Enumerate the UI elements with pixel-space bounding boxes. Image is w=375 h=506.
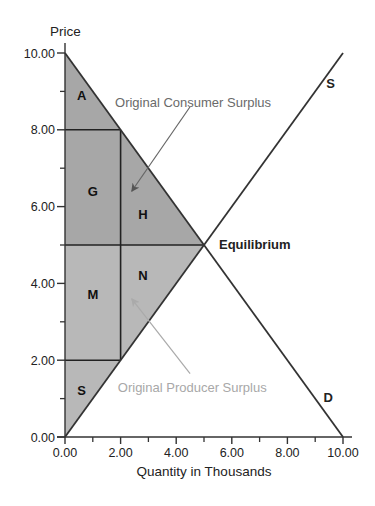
y-tick-label: 10.00 — [24, 47, 55, 61]
x-tick-label: 10.00 — [327, 446, 358, 460]
region-m-producer — [65, 245, 121, 360]
y-tick-label: 8.00 — [31, 123, 55, 137]
x-axis-title: Quantity in Thousands — [137, 464, 272, 479]
y-axis-title: Price — [50, 24, 81, 39]
x-tick-label: 0.00 — [53, 446, 77, 460]
x-tick-label: 4.00 — [164, 446, 188, 460]
supply-curve-label: S — [326, 76, 335, 91]
region-label-m-producer: M — [87, 287, 98, 302]
region-label-g-consumer: G — [88, 184, 98, 199]
equilibrium-label: Equilibrium — [219, 237, 291, 252]
producer-surplus-arrow — [132, 299, 190, 374]
region-label-h-consumer: H — [138, 207, 147, 222]
x-tick-label: 2.00 — [108, 446, 132, 460]
consumer-surplus-arrow — [132, 107, 190, 191]
x-tick-label: 6.00 — [220, 446, 244, 460]
region-label-a-consumer: A — [77, 88, 87, 103]
producer-surplus-annotation: Original Producer Surplus — [118, 380, 267, 395]
x-tick-label: 8.00 — [275, 446, 299, 460]
consumer-surplus-annotation: Original Consumer Surplus — [115, 95, 272, 110]
region-label-s-producer: S — [77, 383, 86, 398]
demand-curve-label: D — [324, 390, 333, 405]
supply-demand-diagram: 0.002.004.006.008.0010.000.002.004.006.0… — [0, 0, 375, 506]
region-label-n-producer: N — [138, 268, 147, 283]
y-tick-label: 2.00 — [31, 354, 55, 368]
y-tick-label: 6.00 — [31, 200, 55, 214]
y-tick-label: 4.00 — [31, 277, 55, 291]
y-tick-label: 0.00 — [31, 431, 55, 445]
